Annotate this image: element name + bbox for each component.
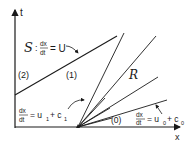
svg-text:dx: dx — [19, 107, 27, 114]
svg-text:= U: = U — [50, 43, 66, 54]
svg-text:dx: dx — [136, 111, 144, 118]
svg-text:1: 1 — [64, 116, 67, 122]
shock-pointer-arrow — [66, 46, 78, 53]
t-axis-label: t — [20, 7, 23, 18]
svg-text:0: 0 — [181, 120, 184, 126]
svg-text::: : — [35, 43, 38, 53]
svg-text:= u: = u — [147, 114, 159, 124]
svg-text:+ c: + c — [167, 114, 179, 124]
svg-text:= u: = u — [30, 110, 42, 120]
svg-text:S: S — [24, 40, 33, 55]
characteristic-1-label: dx dt = u 1 + c 1 — [19, 107, 67, 123]
shock-label: S : dx dt = U — [24, 40, 66, 56]
rarefaction-fan — [78, 33, 167, 127]
svg-text:dt: dt — [19, 116, 25, 123]
svg-text:dt: dt — [136, 119, 142, 126]
svg-text:0: 0 — [163, 120, 166, 126]
region-1-label: (1) — [66, 70, 77, 80]
region-2-label: (2) — [18, 70, 29, 80]
svg-text:1: 1 — [46, 116, 49, 122]
characteristic-0-label: dx dt = u 0 + c 0 — [136, 111, 184, 126]
svg-text:dx: dx — [40, 40, 48, 47]
region-0-label: (0) — [111, 115, 122, 125]
characteristic-0-arrow — [156, 105, 162, 114]
fan-line-2 — [78, 36, 156, 127]
characteristic-1-arrow — [68, 100, 84, 109]
fan-region-label: R — [128, 68, 138, 82]
x-axis-label: x — [175, 132, 180, 142]
svg-text:dt: dt — [40, 49, 46, 56]
diagram-svg: t x S : dx dt = U (2) (1) (0) R dx dt = … — [0, 0, 190, 143]
fan-short-3 — [78, 118, 112, 127]
wave-diagram: t x S : dx dt = U (2) (1) (0) R dx dt = … — [0, 0, 190, 143]
svg-text:+ c: + c — [50, 110, 62, 120]
